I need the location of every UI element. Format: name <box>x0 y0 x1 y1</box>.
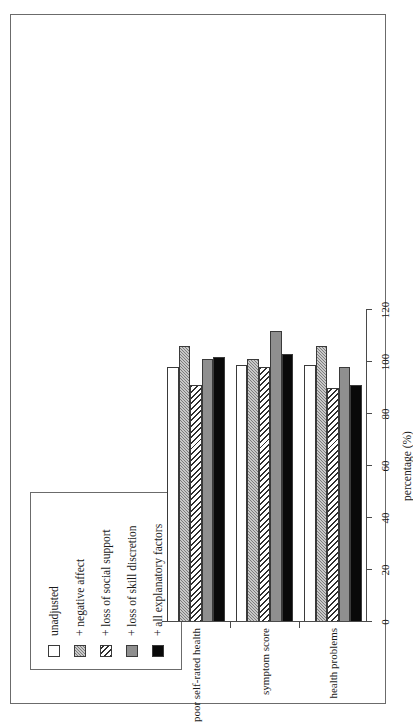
bar <box>179 346 191 622</box>
chart-figure: unadjusted + negative affect + loss of s… <box>12 2 386 692</box>
legend-label: + loss of skill discretion <box>126 525 138 636</box>
axis-tick-label: 20 <box>379 565 391 576</box>
axis-tick <box>366 465 372 466</box>
legend-item: + loss of skill discretion <box>119 505 145 657</box>
category-label: symptom score <box>259 628 271 695</box>
bar <box>350 385 362 622</box>
axis-tick-label: 60 <box>379 461 391 472</box>
legend-label: + negative affect <box>74 559 86 636</box>
axis-tick-label: 120 <box>379 302 391 319</box>
plot-area: 020406080100120 poor self-rated healthsy… <box>162 310 367 622</box>
bar <box>167 367 179 622</box>
axis-tick-label: 0 <box>379 619 391 625</box>
bar <box>282 354 294 622</box>
category-separator-tick <box>299 622 300 628</box>
bar <box>270 331 282 622</box>
legend-swatch-negative-affect-icon <box>74 645 86 657</box>
axis-tick <box>366 413 372 414</box>
legend-label: unadjusted <box>48 586 60 636</box>
category-label: poor self-rated health <box>190 628 202 722</box>
legend-item: + loss of social support <box>93 505 119 657</box>
chart-legend: unadjusted + negative affect + loss of s… <box>30 492 182 670</box>
bar <box>339 367 351 622</box>
bar <box>327 388 339 622</box>
bar <box>304 365 316 622</box>
axis-tick <box>366 569 372 570</box>
bar <box>213 357 225 622</box>
legend-swatch-unadjusted-icon <box>48 645 60 657</box>
axis-tick-label: 100 <box>379 354 391 371</box>
bar <box>202 359 214 622</box>
legend-item: + negative affect <box>67 505 93 657</box>
bar <box>236 365 248 622</box>
bar <box>190 385 202 622</box>
legend-item: unadjusted <box>41 505 67 657</box>
axis-tick <box>366 361 372 362</box>
value-axis-title: percentage (%) <box>401 431 413 501</box>
axis-tick <box>366 309 372 310</box>
category-separator-tick <box>230 622 231 628</box>
bar <box>316 346 328 622</box>
legend-swatch-social-support-icon <box>100 645 112 657</box>
value-axis-line <box>366 310 367 622</box>
axis-tick <box>366 517 372 518</box>
category-axis-line <box>162 621 367 622</box>
legend-label: + loss of social support <box>100 529 112 636</box>
category-label: health problems <box>327 628 339 699</box>
axis-tick-label: 80 <box>379 409 391 420</box>
legend-swatch-skill-discretion-icon <box>126 645 138 657</box>
bar <box>259 367 271 622</box>
axis-tick-label: 40 <box>379 513 391 524</box>
legend-swatch-all-factors-icon <box>152 645 164 657</box>
bar <box>247 359 259 622</box>
